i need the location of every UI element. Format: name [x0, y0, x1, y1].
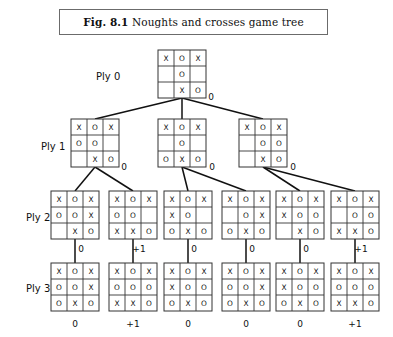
cell-cross: X — [146, 267, 151, 276]
cell-nought: O — [368, 283, 374, 292]
cell-nought: O — [297, 195, 303, 204]
cell-nought: O — [88, 227, 94, 236]
cell-nought: O — [281, 299, 287, 308]
cell-nought: O — [227, 299, 233, 308]
cell-cross: X — [114, 299, 119, 308]
cell-cross: X — [336, 227, 341, 236]
cell-cross: X — [281, 211, 286, 220]
cell-nought: O — [146, 227, 152, 236]
cell-cross: X — [276, 123, 281, 132]
cell-nought: O — [352, 195, 358, 204]
cell-nought: O — [130, 267, 136, 276]
cell-cross: X — [146, 195, 151, 204]
cell-nought: O — [227, 227, 233, 236]
cell-cross: X — [227, 267, 232, 276]
cell-nought: O — [297, 211, 303, 220]
cell-cross: X — [88, 211, 93, 220]
tree-edge — [75, 167, 95, 191]
cell-nought: O — [185, 211, 191, 220]
board-node: XOXOOXOXO — [222, 263, 270, 311]
cell-cross: X — [72, 227, 77, 236]
cell-nought: O — [313, 283, 319, 292]
leaf-score-label: 0 — [72, 319, 78, 329]
cell-cross: X — [92, 155, 97, 164]
cell-cross: X — [169, 211, 174, 220]
cell-cross: X — [56, 195, 61, 204]
board-node: XOXXOOXO — [164, 191, 212, 239]
board-node: XOXXOOOXO — [164, 263, 212, 311]
cell-cross: X — [114, 267, 119, 276]
cell-nought: O — [352, 283, 358, 292]
cell-nought: O — [243, 267, 249, 276]
cell-cross: X — [297, 227, 302, 236]
cell-nought: O — [179, 123, 185, 132]
cell-cross: X — [281, 195, 286, 204]
cell-nought: O — [313, 227, 319, 236]
cell-cross: X — [88, 267, 93, 276]
cell-cross: X — [185, 299, 190, 308]
cell-nought: O — [243, 283, 249, 292]
cell-cross: X — [336, 195, 341, 204]
leaf-score-label: 0 — [243, 319, 249, 329]
board-node: XOXOOOXXO — [331, 263, 379, 311]
edge-score-label: +1 — [132, 244, 145, 254]
cell-nought: O — [185, 283, 191, 292]
board-node: XOXOOOXXO — [109, 263, 157, 311]
cell-nought: O — [201, 227, 207, 236]
cell-cross: X — [259, 267, 264, 276]
cell-cross: X — [243, 227, 248, 236]
cell-cross: X — [114, 195, 119, 204]
cell-cross: X — [260, 155, 265, 164]
cell-cross: X — [352, 227, 357, 236]
cell-nought: O — [179, 139, 185, 148]
cell-cross: X — [244, 123, 249, 132]
cell-cross: X — [88, 195, 93, 204]
cell-cross: X — [201, 195, 206, 204]
cell-cross: X — [76, 123, 81, 132]
cell-nought: O — [146, 283, 152, 292]
cell-nought: O — [72, 283, 78, 292]
cell-cross: X — [169, 283, 174, 292]
board-node: XOXOXO — [158, 50, 206, 98]
board-node: XOXOXOXO — [222, 191, 270, 239]
board-node: XOXXOOOXO — [276, 263, 324, 311]
ply-label-ply-2: Ply 2 — [26, 212, 50, 223]
cell-nought: O — [243, 211, 249, 220]
cell-nought: O — [185, 195, 191, 204]
cell-cross: X — [195, 123, 200, 132]
cell-cross: X — [72, 299, 77, 308]
cell-cross: X — [108, 123, 113, 132]
cell-nought: O — [195, 86, 201, 95]
cell-cross: X — [195, 54, 200, 63]
cell-nought: O — [313, 299, 319, 308]
cell-nought: O — [169, 299, 175, 308]
cell-cross: X — [368, 195, 373, 204]
board-node: XOXOOXOXO — [51, 263, 99, 311]
leaf-score-label: +1 — [126, 319, 139, 329]
cell-cross: X — [336, 267, 341, 276]
cell-cross: X — [201, 267, 206, 276]
cell-cross: X — [179, 155, 184, 164]
ply-label-ply-0: Ply 0 — [96, 71, 120, 82]
cell-cross: X — [281, 267, 286, 276]
cell-nought: O — [76, 139, 82, 148]
game-tree-figure: XOXOXOXOXOOXOXOXOOXOXOXOOXOXOXOOXXOXOXOO… — [0, 0, 393, 337]
cell-cross: X — [259, 283, 264, 292]
edge-score-label: 0 — [290, 162, 296, 172]
board-node: XOXOOXXO — [109, 191, 157, 239]
tree-edge — [263, 167, 355, 191]
cell-nought: O — [260, 139, 266, 148]
cell-nought: O — [56, 283, 62, 292]
cell-cross: X — [352, 299, 357, 308]
cell-nought: O — [297, 283, 303, 292]
cell-nought: O — [163, 155, 169, 164]
cell-cross: X — [313, 195, 318, 204]
board-node: XOXXOOXO — [276, 191, 324, 239]
board-node: XOXOOXO — [239, 119, 287, 167]
cell-nought: O — [72, 211, 78, 220]
tree-edge — [182, 98, 263, 119]
cell-cross: X — [114, 227, 119, 236]
cell-cross: X — [179, 86, 184, 95]
cell-cross: X — [185, 227, 190, 236]
cell-nought: O — [336, 283, 342, 292]
